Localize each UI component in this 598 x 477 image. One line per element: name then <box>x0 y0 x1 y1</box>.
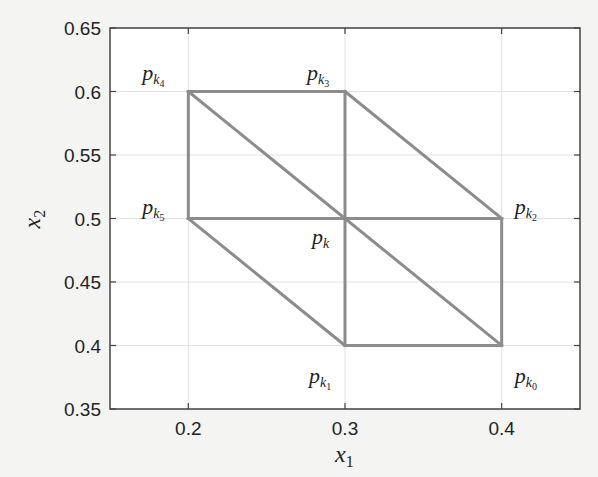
y-tick-label: 0.5 <box>75 209 101 230</box>
x-tick-label: 0.3 <box>332 418 358 439</box>
y-tick-label: 0.4 <box>75 336 102 357</box>
y-tick-label: 0.35 <box>64 399 101 420</box>
y-axis-label: x2 <box>19 210 48 230</box>
y-tick-label: 0.6 <box>75 82 101 103</box>
x-tick-label: 0.2 <box>175 418 201 439</box>
chart: 0.20.30.40.350.40.450.50.550.60.65 pkpk0… <box>0 0 598 477</box>
y-tick-label: 0.55 <box>64 145 101 166</box>
y-tick-label: 0.65 <box>64 18 101 39</box>
x-tick-label: 0.4 <box>488 418 515 439</box>
y-tick-label: 0.45 <box>64 272 101 293</box>
x-axis-label: x1 <box>334 441 354 470</box>
